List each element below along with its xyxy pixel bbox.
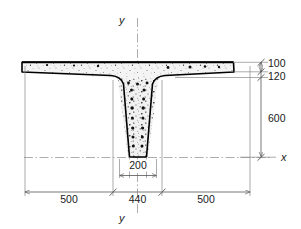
beam-section [22,62,234,157]
vertical-dimensions: 100 120 600 [258,57,286,161]
flange-concrete-fill [22,63,234,79]
dim-label-600: 600 [268,112,286,124]
axis-label-x: x [280,151,287,163]
drawing-canvas: 100 120 600 x y y 200 [0,0,301,229]
axis-label-y-top: y [118,14,126,26]
dim-label-500-right: 500 [197,193,215,205]
dim-label-100: 100 [268,57,286,69]
dim-label-500-left: 500 [60,193,78,205]
dim-label-440: 440 [129,193,147,205]
dim-label-200: 200 [129,159,147,171]
axis-label-y-bottom: y [118,212,126,224]
dim-label-120: 120 [268,70,286,82]
dim-group-200: 200 [119,159,157,178]
beam-cross-section-drawing: 100 120 600 x y y 200 [0,0,301,229]
